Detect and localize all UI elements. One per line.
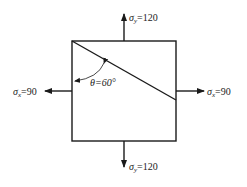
stress-diagram: σy=120 σy=120 σx=90 σx=90 θ=60° [0, 0, 247, 187]
sigma-y-top-label: σy=120 [129, 12, 158, 25]
sigma-x-right-label: σx=90 [207, 86, 231, 99]
sigma-x-left-label: σx=90 [13, 86, 37, 99]
sigma-y-bottom-label: σy=120 [129, 161, 158, 174]
theta-angle-label: θ=60° [90, 77, 116, 88]
inclined-plane-line [72, 41, 176, 100]
